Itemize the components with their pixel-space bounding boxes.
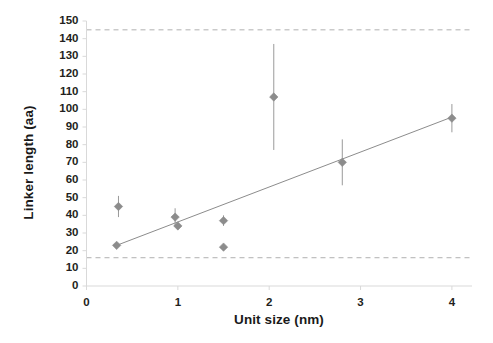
error-bars <box>118 44 451 226</box>
plot-area <box>0 0 493 343</box>
data-point-marker <box>448 114 456 122</box>
data-point-marker <box>270 93 278 101</box>
data-point-marker <box>112 241 120 249</box>
data-point-marker <box>219 243 227 251</box>
data-point-marker <box>114 202 122 210</box>
axis-lines <box>87 21 473 286</box>
data-point-marker <box>171 213 179 221</box>
trend-line <box>117 116 454 245</box>
chart-container: Linker length (aa) Unit size (nm) 010203… <box>0 0 493 343</box>
data-point-marker <box>219 216 227 224</box>
reference-lines <box>87 30 473 258</box>
trendline-segment <box>117 116 454 245</box>
data-point-marker <box>338 158 346 166</box>
axis-tick-marks <box>83 21 452 290</box>
